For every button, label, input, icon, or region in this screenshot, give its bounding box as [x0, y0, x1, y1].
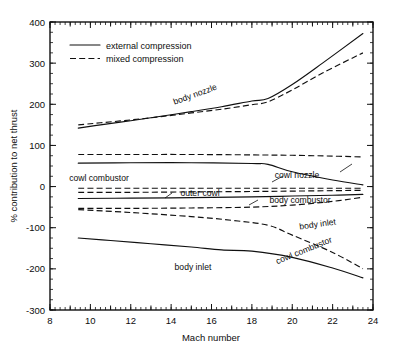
y-tick-label: 400	[29, 17, 45, 28]
y-axis-tick-labels: -300-200-1000100200300400	[26, 17, 45, 316]
y-tick-label: 300	[29, 58, 45, 69]
series-line	[78, 190, 363, 192]
x-tick-label: 20	[287, 315, 298, 326]
curve-label: body nozzle	[172, 82, 219, 107]
axis-ticks	[50, 22, 373, 310]
x-axis-tick-labels: 81012141618202224	[47, 315, 378, 326]
chart-svg: 81012141618202224 -300-200-1000100200300…	[0, 0, 393, 359]
curve-label: cowl combustor	[274, 234, 333, 266]
x-tick-label: 16	[206, 315, 217, 326]
y-tick-label: 200	[29, 99, 45, 110]
legend-label: mixed compression	[106, 54, 184, 64]
x-tick-label: 24	[368, 315, 379, 326]
curve-label: cowl combustor	[69, 173, 129, 183]
series-line	[78, 154, 363, 157]
x-tick-label: 12	[125, 315, 136, 326]
curve-label: outer cowl	[180, 188, 219, 198]
chart-legend: external compressionmixed compression	[70, 41, 192, 65]
curve-label: cowl nozzle	[275, 170, 320, 180]
x-tick-label: 8	[47, 315, 52, 326]
curve-label: body inlet	[175, 262, 212, 272]
chart-figure: 81012141618202224 -300-200-1000100200300…	[0, 0, 393, 359]
curve-label: body combustor	[269, 195, 330, 205]
y-axis-title: % contribution to net thrust	[8, 109, 19, 222]
x-tick-label: 14	[166, 315, 177, 326]
y-tick-label: -100	[26, 222, 45, 233]
label-leader-line	[249, 200, 258, 205]
x-tick-label: 18	[247, 315, 258, 326]
x-tick-label: 22	[327, 315, 338, 326]
y-tick-label: 0	[40, 181, 45, 192]
y-tick-label: -200	[26, 263, 45, 274]
curve-label: body inlet	[299, 216, 337, 231]
label-leader-line	[165, 193, 172, 198]
x-tick-label: 10	[85, 315, 96, 326]
x-axis-title: Mach number	[182, 332, 240, 343]
y-tick-label: 100	[29, 140, 45, 151]
y-tick-label: -300	[26, 305, 45, 316]
plot-frame	[50, 22, 373, 310]
label-leader-line	[340, 164, 352, 172]
legend-label: external compression	[106, 41, 192, 51]
